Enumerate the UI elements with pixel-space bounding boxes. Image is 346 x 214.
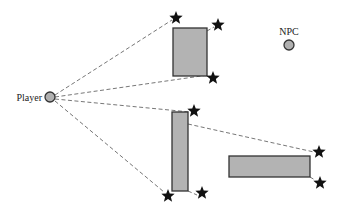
sight-line: [55, 101, 164, 192]
npc-label: NPC: [279, 26, 299, 37]
npc: NPC: [279, 26, 299, 50]
star-icon: [169, 11, 182, 24]
star-icon: [187, 104, 200, 117]
star-icon: [312, 145, 325, 158]
npc-icon: [284, 40, 294, 50]
sight-line: [55, 75, 208, 97]
sight-line: [55, 99, 190, 112]
diagram-canvas: Player NPC: [0, 0, 346, 214]
obstacle-top-block: [173, 28, 207, 76]
sight-line: [55, 20, 172, 95]
star-icon: [313, 176, 326, 189]
sight-line: [188, 124, 314, 152]
sight-line: [188, 191, 197, 195]
obstacle-tall-block: [172, 112, 188, 191]
player-label: Player: [16, 92, 42, 103]
player: Player: [16, 92, 55, 103]
player-icon: [45, 92, 55, 102]
star-icon: [195, 186, 208, 199]
star-icon: [211, 18, 224, 31]
sight-line: [207, 27, 214, 31]
sight-line: [310, 177, 315, 180]
star-icon: [206, 71, 219, 84]
obstacle-wide-block: [229, 156, 310, 177]
